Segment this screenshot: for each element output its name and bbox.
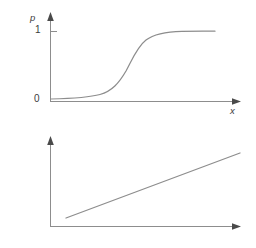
logit-x-axis-arrow-icon	[232, 223, 241, 230]
logistic-x-axis-label: x	[230, 106, 235, 116]
logit-plot-svg	[0, 124, 256, 248]
logistic-y-axis-arrow-icon	[47, 12, 54, 21]
logistic-y-axis-label: p	[30, 13, 35, 23]
logit-y-axis-arrow-icon	[47, 136, 54, 145]
logit-line	[66, 153, 240, 218]
figure-logistic-logit: p 1 0 x Logit p x	[0, 0, 256, 248]
chart-panel-logistic: p 1 0 x	[0, 0, 256, 124]
logistic-curve	[51, 31, 215, 99]
logistic-plot-svg	[0, 0, 256, 124]
chart-panel-logit: Logit p x	[0, 124, 256, 248]
logistic-origin-label: 0	[34, 94, 40, 104]
logistic-y-tick-label-1: 1	[35, 25, 41, 35]
logistic-x-axis-arrow-icon	[232, 98, 241, 105]
